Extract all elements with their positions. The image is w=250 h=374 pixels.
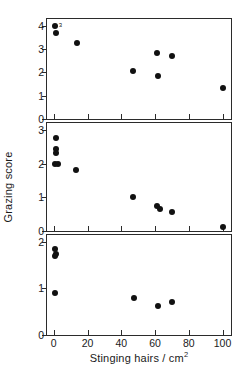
top-panel: 012343 (46, 18, 232, 120)
data-point (154, 50, 160, 56)
data-point (52, 290, 58, 296)
scatter-figure: Grazing score 012343 0123 01202040608010… (0, 0, 250, 374)
data-point (53, 30, 59, 36)
y-tick-label: 2 (38, 158, 44, 169)
data-point (53, 135, 59, 141)
x-tick (155, 226, 156, 231)
data-point (169, 299, 175, 305)
data-point (169, 209, 175, 215)
data-point (74, 40, 80, 46)
x-tick-label: 80 (183, 338, 195, 349)
data-point (55, 161, 61, 167)
x-tick (155, 330, 156, 335)
x-tick-label: 0 (51, 338, 57, 349)
data-point (220, 85, 226, 91)
x-tick (88, 330, 89, 335)
y-axis-label: Grazing score (0, 0, 16, 374)
x-tick-label: 60 (149, 338, 161, 349)
data-point (220, 224, 226, 230)
data-point (131, 295, 137, 301)
x-tick (88, 226, 89, 231)
y-tick-label: 1 (38, 283, 44, 294)
x-tick-label: 100 (214, 338, 232, 349)
data-point (155, 303, 161, 309)
point-count-annotation: 3 (59, 22, 62, 28)
data-point (169, 53, 175, 59)
x-tick (54, 114, 55, 119)
y-tick-label: 2 (38, 67, 44, 78)
data-point (73, 167, 79, 173)
x-axis-label-superscript: 2 (184, 350, 188, 359)
y-tick-label: 3 (38, 44, 44, 55)
x-axis-label-text: Stinging hairs / cm (90, 352, 184, 364)
y-tick-label: 0 (38, 330, 44, 341)
x-tick (121, 226, 122, 231)
bottom-panel-plot-area: 012020406080100 (47, 235, 231, 335)
x-tick (121, 114, 122, 119)
bottom-panel: 012020406080100 (46, 234, 232, 336)
x-tick (155, 114, 156, 119)
data-point (52, 23, 58, 29)
y-tick-label: 3 (38, 125, 44, 136)
x-tick (223, 114, 224, 119)
x-tick (223, 330, 224, 335)
x-tick (189, 226, 190, 231)
data-point (130, 194, 136, 200)
y-tick-label: 4 (38, 21, 44, 32)
y-tick-label: 1 (38, 90, 44, 101)
x-tick (121, 330, 122, 335)
data-point (130, 68, 136, 74)
middle-panel: 0123 (46, 122, 232, 232)
middle-panel-plot-area: 0123 (47, 123, 231, 231)
x-tick (54, 226, 55, 231)
x-tick (189, 114, 190, 119)
data-point (155, 73, 161, 79)
x-tick (88, 114, 89, 119)
data-point (53, 150, 59, 156)
x-tick-label: 20 (82, 338, 94, 349)
x-axis-label: Stinging hairs / cm2 (46, 352, 232, 364)
data-point (157, 206, 163, 212)
y-tick-label: 2 (38, 237, 44, 248)
y-tick-label: 1 (38, 192, 44, 203)
x-tick (54, 330, 55, 335)
y-tick-label: 0 (38, 226, 44, 237)
x-tick-label: 40 (115, 338, 127, 349)
x-tick (189, 330, 190, 335)
top-panel-plot-area: 012343 (47, 19, 231, 119)
data-point (52, 253, 58, 259)
